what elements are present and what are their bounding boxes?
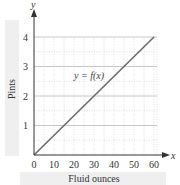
x-tick-labels: 0102030405060 <box>32 159 160 170</box>
y-tick-label: 2 <box>23 91 28 102</box>
x-tick-label: 20 <box>69 159 79 170</box>
y-axis-arrow-icon <box>31 9 37 17</box>
y-axis-label: Pints <box>6 79 17 99</box>
y-axis-symbol: y <box>30 0 36 10</box>
x-tick-label: 40 <box>109 159 119 170</box>
chart-figure: y x 0102030405060 1234 y = f(x) Fluid ou… <box>0 0 180 185</box>
y-tick-labels: 1234 <box>23 32 28 132</box>
x-axis-symbol: x <box>170 150 176 161</box>
x-tick-label: 0 <box>32 159 37 170</box>
y-tick-label: 4 <box>23 32 28 43</box>
x-tick-label: 50 <box>129 159 139 170</box>
x-axis-arrow-icon <box>162 152 170 158</box>
x-tick-label: 60 <box>149 159 159 170</box>
y-tick-label: 1 <box>23 120 28 131</box>
x-tick-label: 30 <box>89 159 99 170</box>
x-axis-label: Fluid ounces <box>68 173 119 184</box>
x-tick-label: 10 <box>49 159 59 170</box>
function-label: y = f(x) <box>73 70 105 82</box>
y-tick-label: 3 <box>23 61 28 72</box>
